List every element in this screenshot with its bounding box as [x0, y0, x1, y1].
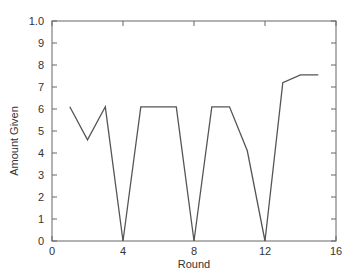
- plot-frame: [52, 21, 336, 241]
- y-tick-label: 7: [38, 81, 44, 93]
- amount-given-line: [70, 75, 318, 241]
- x-tick-label: 16: [330, 245, 342, 257]
- x-tick-label: 12: [259, 245, 271, 257]
- axis-ticks: [52, 21, 336, 241]
- line-chart: 0481216 01234567891.0 Round Amount Given: [0, 0, 354, 280]
- x-tick-label: 0: [49, 245, 55, 257]
- y-tick-label: 9: [38, 37, 44, 49]
- x-tick-label: 8: [191, 245, 197, 257]
- y-tick-label: 8: [38, 59, 44, 71]
- y-tick-label: 4: [38, 147, 44, 159]
- x-axis-label: Round: [178, 258, 210, 270]
- y-axis-label: Amount Given: [8, 106, 20, 176]
- y-tick-label: 2: [38, 191, 44, 203]
- y-tick-label: 0: [38, 235, 44, 247]
- y-tick-label: 1: [38, 213, 44, 225]
- x-tick-labels: 0481216: [49, 245, 342, 257]
- x-tick-label: 4: [120, 245, 126, 257]
- y-tick-labels: 01234567891.0: [29, 15, 44, 247]
- y-tick-label: 5: [38, 125, 44, 137]
- y-tick-label: 6: [38, 103, 44, 115]
- y-tick-label: 1.0: [29, 15, 44, 27]
- y-tick-label: 3: [38, 169, 44, 181]
